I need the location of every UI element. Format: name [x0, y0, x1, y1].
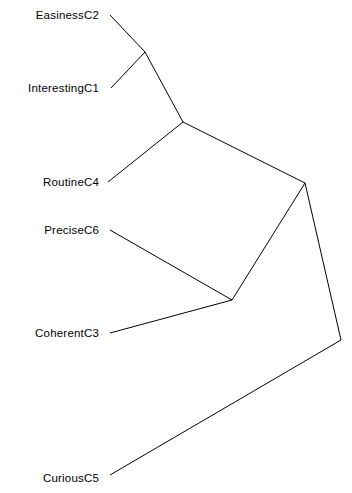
leaf-name-cell-c4: Routine: [6, 174, 84, 190]
leaf-code-c1: C1: [84, 80, 99, 96]
leaf-row-c5: CuriousC5: [0, 470, 112, 486]
tree-edge-layer: [108, 15, 341, 475]
tree-branch-C3-N4: [110, 300, 232, 333]
leaf-name-cell-c2: Easiness: [6, 7, 84, 23]
leaf-row-c6: PreciseC6: [0, 222, 112, 238]
leaf-code-cell-c4: C4: [84, 174, 108, 190]
leaf-code-c3: C3: [84, 325, 99, 341]
leaf-name-cell-c5: Curious: [6, 470, 84, 486]
leaf-row-c4: RoutineC4: [0, 174, 112, 190]
tree-branch-N3-N5: [305, 183, 341, 340]
leaf-label-c6: Precise: [44, 222, 84, 238]
leaf-code-c6: C6: [84, 222, 99, 238]
leaf-code-cell-c6: C6: [84, 222, 108, 238]
leaf-row-c2: EasinessC2: [0, 7, 112, 23]
tree-branch-C1-N1: [111, 52, 145, 88]
tree-branch-N3-N4: [232, 183, 305, 300]
leaf-code-cell-c5: C5: [84, 470, 108, 486]
tree-branch-C2-N1: [110, 15, 145, 52]
leaf-name-cell-c1: Interesting: [6, 80, 84, 96]
tree-diagram: [0, 0, 352, 493]
tree-branch-N2-N3: [183, 122, 305, 183]
leaf-label-c2: Easiness: [36, 7, 84, 23]
leaf-code-c2: C2: [84, 7, 99, 23]
leaf-code-c5: C5: [84, 470, 99, 486]
leaf-label-c5: Curious: [43, 470, 84, 486]
tree-branch-N1-N2: [145, 52, 183, 122]
leaf-row-c3: CoherentC3: [0, 325, 112, 341]
leaf-name-cell-c6: Precise: [6, 222, 84, 238]
leaf-code-cell-c3: C3: [84, 325, 108, 341]
leaf-label-c1: Interesting: [28, 80, 84, 96]
leaf-code-cell-c2: C2: [84, 7, 108, 23]
leaf-row-c1: InterestingC1: [0, 80, 112, 96]
leaf-name-cell-c3: Coherent: [6, 325, 84, 341]
leaf-code-c4: C4: [84, 174, 99, 190]
tree-branch-C6-N4: [110, 230, 232, 300]
leaf-label-c3: Coherent: [35, 325, 84, 341]
tree-branch-C4-N2: [108, 122, 183, 182]
tree-branch-N5-C5: [110, 340, 341, 475]
leaf-code-cell-c1: C1: [84, 80, 108, 96]
leaf-label-c4: Routine: [43, 174, 84, 190]
